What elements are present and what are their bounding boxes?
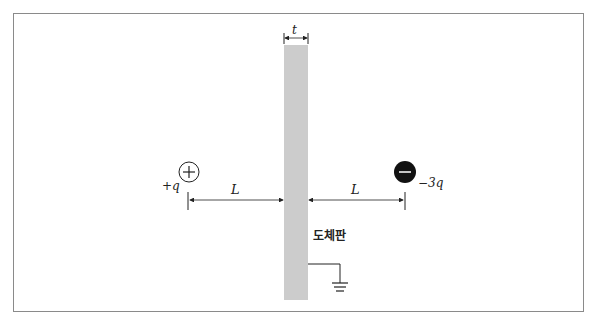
negative-charge-label: −3q — [418, 176, 444, 190]
ground-icon — [308, 264, 348, 291]
left-distance-dimension: L — [188, 182, 283, 210]
positive-charge: +q — [162, 162, 199, 193]
right-distance-dimension: L — [309, 182, 405, 210]
plate-label: 도체판 — [313, 228, 346, 243]
conductor-plate — [284, 45, 308, 300]
right-distance-label: L — [350, 182, 360, 197]
thickness-label: t — [292, 23, 297, 37]
left-distance-label: L — [230, 182, 240, 197]
thickness-dimension: t — [284, 23, 308, 44]
negative-charge: −3q — [394, 161, 444, 190]
positive-charge-label: +q — [162, 179, 180, 193]
diagram-canvas: t +q −3q L L 도체판 — [0, 0, 598, 328]
